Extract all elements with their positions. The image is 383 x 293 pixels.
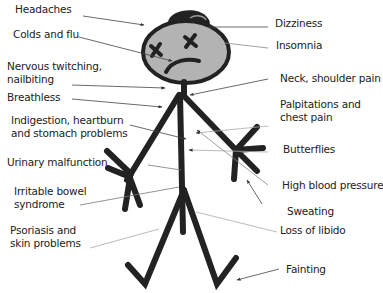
label-palpitations: Palpitations and chest pain [280, 98, 361, 124]
label-sweating: Sweating [287, 205, 334, 218]
label-indigestion: Indigestion, heartburn and stomach probl… [11, 114, 127, 140]
label-headaches: Headaches [15, 3, 71, 16]
label-psoriasis: Psoriasis and skin problems [10, 224, 81, 250]
label-nervous-twitching: Nervous twitching, nailbiting [7, 60, 102, 86]
label-breathless: Breathless [7, 91, 60, 104]
body-icon [107, 82, 263, 284]
label-colds-and-flu: Colds and flu [13, 28, 79, 41]
label-urinary-malfunction: Urinary malfunction [7, 156, 108, 169]
label-butterflies: Butterflies [283, 143, 335, 156]
label-irritable-bowel: Irritable bowel syndrome [14, 185, 86, 211]
label-insomnia: Insomnia [276, 39, 322, 52]
label-high-blood-pressure: High blood pressure [282, 179, 383, 192]
label-neck-shoulder-pain: Neck, shoulder pain [280, 72, 381, 85]
label-fainting: Fainting [286, 263, 326, 276]
label-loss-of-libido: Loss of libido [280, 224, 346, 237]
label-dizziness: Dizziness [275, 17, 322, 30]
